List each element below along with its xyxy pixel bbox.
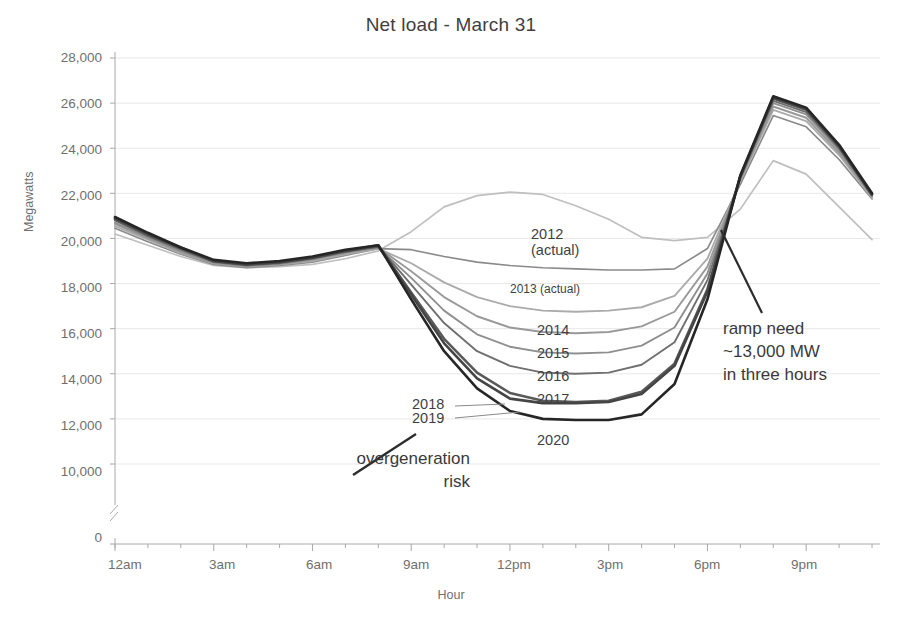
series-label-2015: 2015: [537, 345, 569, 361]
annotation-overgeneration-line1: overgeneration: [290, 448, 470, 471]
series-label-2017: 2017: [537, 391, 569, 407]
series-label-2016: 2016: [537, 368, 569, 384]
series-label-2019: 2019: [412, 410, 444, 426]
plot-area: [0, 0, 902, 627]
axis-break-icon: [110, 505, 118, 521]
annotation-ramp-need: ramp need ~13,000 MW in three hours: [723, 318, 827, 386]
annotation-ramp-need-line1: ramp need: [723, 318, 827, 341]
series-label-2012: 2012 (actual): [531, 226, 579, 258]
annotation-ramp-need-line3: in three hours: [723, 364, 827, 387]
series-label-2012-line1: 2012: [531, 226, 579, 242]
y-tick-marks: [110, 58, 115, 544]
annotation-overgeneration-line2: risk: [290, 471, 470, 494]
annotation-overgeneration-risk: overgeneration risk: [290, 448, 470, 494]
series-label-2020: 2020: [537, 432, 569, 448]
x-tick-marks: [115, 544, 872, 551]
annotation-ramp-need-line2: ~13,000 MW: [723, 341, 827, 364]
series-line-2012-actual-: [115, 161, 872, 268]
series-label-2012-line2: (actual): [531, 242, 579, 258]
series-label-2014: 2014: [537, 322, 569, 338]
series-label-2013: 2013 (actual): [510, 283, 580, 296]
series-line-2015: [115, 106, 872, 333]
net-load-chart: Net load - March 31 Megawatts Hour 28,00…: [0, 0, 902, 627]
